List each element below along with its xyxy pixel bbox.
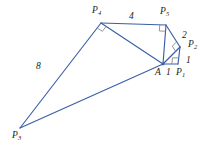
segment-a-p4 <box>101 23 163 64</box>
right-angle-at-p4 <box>97 26 106 31</box>
point-label-subscript: 2 <box>194 43 197 50</box>
point-label-subscript: 5 <box>166 10 169 17</box>
point-label-base: P <box>160 6 166 16</box>
point-label-p3: P3 <box>12 131 21 141</box>
point-label-subscript: 4 <box>98 9 101 16</box>
point-label-p4: P4 <box>92 6 101 16</box>
length-A-P1: 1 <box>166 68 171 78</box>
right-angle-at-p5 <box>159 25 165 31</box>
point-label-a: A <box>155 68 161 78</box>
right-angle-group <box>97 25 179 64</box>
segment-a-p3 <box>20 64 163 128</box>
point-label-subscript: 1 <box>182 71 185 78</box>
point-label-p1: P1 <box>176 68 185 78</box>
point-label-base: A <box>155 67 161 77</box>
point-label-base: P <box>12 130 18 140</box>
vertex-dot-a <box>162 63 165 66</box>
point-label-p2: P2 <box>188 40 197 50</box>
length-P5-P4: 4 <box>129 12 134 22</box>
geometry-figure: AP1P2P3P4P511248 <box>0 0 217 148</box>
point-label-base: P <box>188 39 194 49</box>
point-label-base: P <box>176 67 182 77</box>
segment-p2-p5 <box>166 25 180 47</box>
segment-a-p2 <box>163 47 180 64</box>
right-angle-at-p2 <box>172 42 176 52</box>
point-label-subscript: 3 <box>18 134 21 141</box>
length-P2-P5: 2 <box>182 31 187 41</box>
point-label-base: P <box>92 5 98 15</box>
segment-p1-p2 <box>178 47 180 64</box>
vertex-dot-group <box>162 63 165 66</box>
length-P4-P3: 8 <box>36 62 41 72</box>
point-label-p5: P5 <box>160 7 169 17</box>
segment-p4-p3 <box>20 23 101 128</box>
length-P1-P2: 1 <box>186 56 191 66</box>
segment-p5-p4 <box>101 23 166 25</box>
